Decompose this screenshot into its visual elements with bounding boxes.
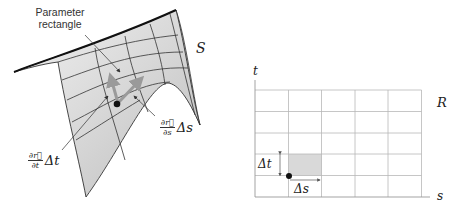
surface-label: S (196, 40, 206, 56)
dr-dt-fraction: ∂r⃗ ∂t (28, 151, 43, 170)
domain-point (286, 173, 292, 179)
s-axis-label: s (437, 189, 443, 203)
region-label: R (437, 95, 447, 110)
delta-s-label: Δs (294, 182, 309, 196)
parameter-domain-r (255, 80, 430, 197)
t-axis-label: t (253, 64, 258, 78)
callout-line-1: Parameter (25, 6, 95, 18)
vector-s-label: ∂r⃗ ∂s Δs (160, 117, 193, 137)
callout-line-2: rectangle (25, 18, 95, 30)
figure-canvas (0, 0, 455, 209)
parameter-rectangle-callout: Parameter rectangle (25, 6, 95, 30)
shaded-parameter-rectangle (289, 154, 322, 176)
dr-ds-fraction: ∂r⃗ ∂s (160, 118, 175, 137)
surface-point (114, 101, 121, 108)
delta-t-label: Δt (258, 157, 272, 171)
vector-t-label: ∂r⃗ ∂t Δt (28, 150, 59, 170)
